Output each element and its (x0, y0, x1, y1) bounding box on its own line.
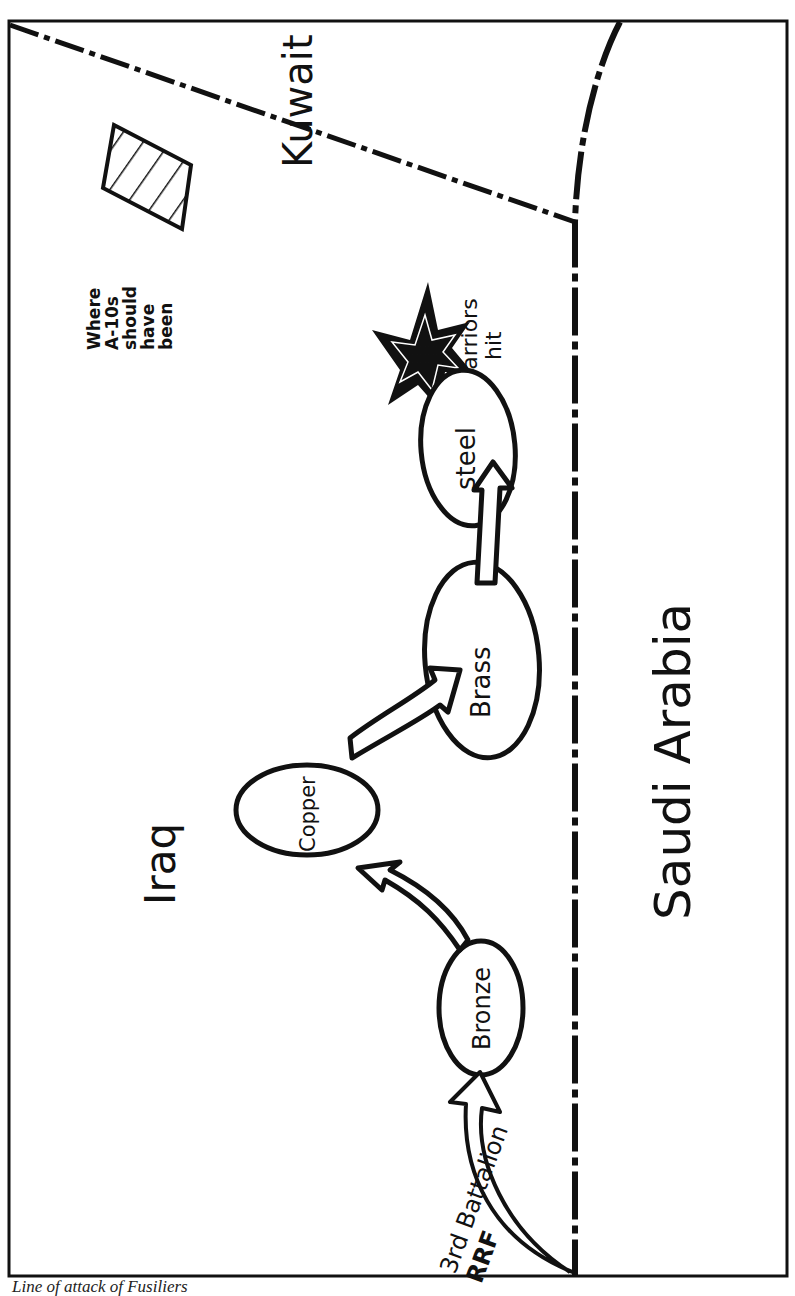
battle-map: Kuwait Iraq Saudi Arabia Where A-10s sho… (0, 0, 795, 1296)
figure-caption: Line of attack of Fusiliers (12, 1278, 188, 1296)
a10-label: Where A-10s should have been (84, 286, 176, 350)
label-saudi-arabia: Saudi Arabia (644, 603, 702, 920)
a10-zone-box (103, 125, 191, 229)
svg-text:have: have (138, 304, 158, 350)
svg-text:should: should (120, 286, 140, 350)
svg-text:Where: Where (84, 288, 104, 350)
svg-text:steel: steel (451, 427, 481, 490)
objective-steel[interactable]: steel (414, 366, 521, 530)
label-kuwait: Kuwait (275, 34, 321, 168)
svg-text:Copper: Copper (296, 776, 320, 852)
svg-text:A-10s: A-10s (102, 296, 122, 350)
svg-text:hit: hit (481, 331, 506, 360)
svg-text:Bronze: Bronze (468, 967, 496, 1050)
objective-copper[interactable]: Copper (236, 765, 378, 855)
arrow-brass-to-steel (474, 462, 512, 583)
svg-text:been: been (156, 303, 176, 350)
saudi-border-line (575, 22, 620, 1276)
objective-bronze[interactable]: Bronze (439, 941, 523, 1075)
svg-text:Brass: Brass (466, 646, 496, 718)
arrow-bronze-to-copper (358, 862, 468, 950)
label-iraq: Iraq (136, 823, 185, 905)
objective-brass[interactable]: Brass (417, 557, 548, 762)
